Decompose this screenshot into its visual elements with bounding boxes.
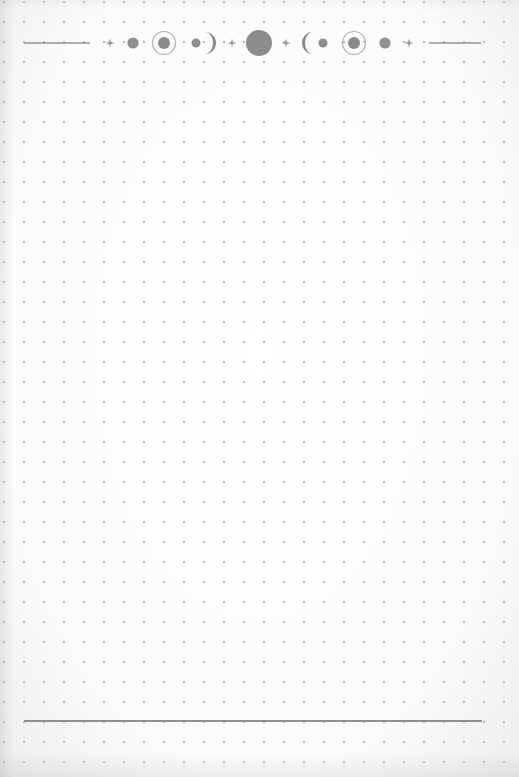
waning-crescent-icon	[302, 32, 328, 54]
left-rule	[24, 42, 90, 43]
sparkle-icon	[228, 39, 237, 48]
moon-phase-divider	[0, 28, 519, 60]
new-moon-dot-icon	[379, 37, 390, 48]
dot-grid-background	[0, 0, 519, 777]
sparkle-icon	[106, 39, 115, 48]
moon-phase-header	[0, 28, 519, 60]
sparkle-icon	[282, 39, 291, 48]
right-rule	[429, 42, 481, 43]
full-moon-icon	[246, 30, 272, 56]
sparkle-icon	[405, 39, 414, 48]
waxing-crescent-icon	[192, 32, 217, 54]
bottom-rule	[24, 720, 482, 722]
ringed-moon-icon	[343, 32, 366, 55]
new-moon-dot-icon	[127, 37, 138, 48]
ringed-moon-icon	[153, 32, 176, 55]
notebook-page	[0, 0, 519, 777]
